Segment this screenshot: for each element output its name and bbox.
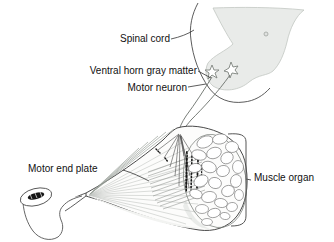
muscle-organ-drawing — [86, 126, 254, 233]
gray-matter-shape — [206, 7, 304, 90]
label-muscle-organ: Muscle organ — [254, 172, 314, 184]
central-canal — [264, 32, 268, 36]
label-motor-end-plate: Motor end plate — [28, 163, 98, 175]
label-ventral-horn-gray-matter: Ventral horn gray matter — [90, 65, 197, 77]
bone-and-tendon — [18, 185, 86, 240]
diagram-canvas: Spinal cord Ventral horn gray matter Mot… — [0, 0, 334, 242]
label-motor-neuron: Motor neuron — [128, 82, 187, 94]
label-spinal-cord: Spinal cord — [120, 33, 170, 45]
leader-motor-neuron — [188, 84, 206, 87]
